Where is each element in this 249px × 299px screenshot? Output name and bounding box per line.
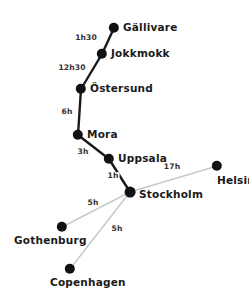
city-label-ostersund: Östersund	[90, 83, 153, 94]
edge-duration-label: 3h	[77, 148, 90, 156]
route-edges-layer	[0, 0, 249, 299]
city-label-copenhagen: Copenhagen	[50, 277, 126, 288]
route-map: 1h3012h306h3h1h17h5h5hGällivareJokkmokkÖ…	[0, 0, 249, 299]
city-label-helsinki: Helsinki	[217, 175, 249, 186]
edge-duration-label: 6h	[61, 108, 74, 116]
edge-duration-label: 5h	[87, 199, 100, 207]
edge-duration-label: 17h	[163, 163, 181, 171]
route-edge	[78, 89, 81, 135]
city-label-gothenburg: Gothenburg	[14, 235, 87, 246]
edge-duration-label: 12h30	[57, 64, 86, 72]
city-label-jokkmokk: Jokkmokk	[111, 48, 170, 59]
edge-duration-label: 1h	[107, 172, 120, 180]
city-node-stockholm[interactable]	[125, 187, 136, 198]
edge-duration-label: 1h30	[74, 34, 98, 42]
city-label-stockholm: Stockholm	[139, 189, 203, 200]
edge-duration-label: 5h	[111, 225, 124, 233]
city-label-uppsala: Uppsala	[118, 153, 167, 164]
city-label-mora: Mora	[87, 129, 118, 140]
city-label-gallivare: Gällivare	[123, 22, 178, 33]
